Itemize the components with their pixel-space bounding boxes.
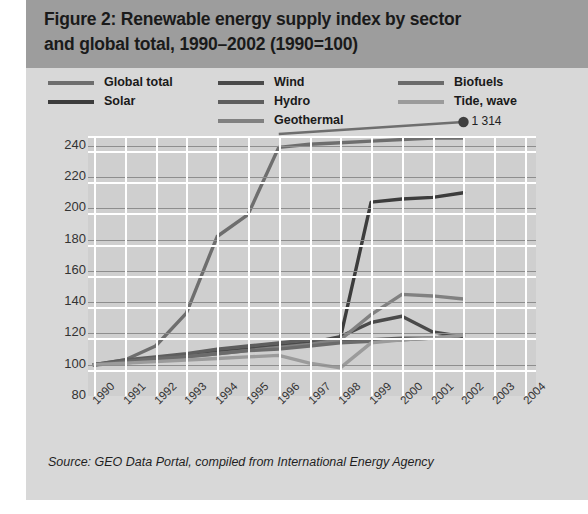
gridline-vertical: [340, 138, 342, 396]
page-title: Figure 2: Renewable energy supply index …: [44, 7, 564, 57]
legend-label: Global total: [104, 75, 173, 89]
data-point-label: 1 314: [471, 114, 501, 128]
legend-swatch-icon: [48, 81, 94, 85]
legend-label: Hydro: [274, 94, 310, 108]
legend-swatch-icon: [218, 81, 264, 85]
gridline-vertical: [371, 138, 373, 396]
gridline-vertical: [494, 138, 496, 396]
gridline-vertical: [402, 138, 404, 396]
y-axis-tick-label: 120: [30, 324, 86, 339]
legend-swatch-icon: [48, 100, 94, 104]
y-axis-tick-label: 100: [30, 355, 86, 370]
gridline-vertical: [125, 138, 127, 396]
plot-area: [88, 136, 536, 396]
series-line-clipped-tail: [279, 122, 464, 134]
gridline-vertical: [525, 138, 527, 396]
legend-label: Biofuels: [454, 75, 503, 89]
gridline-vertical: [186, 138, 188, 396]
y-axis-tick-label: 140: [30, 293, 86, 308]
y-axis-tick-label: 220: [30, 168, 86, 183]
legend-swatch-icon: [398, 81, 444, 85]
y-axis-tick-label: 200: [30, 199, 86, 214]
y-axis-tick-label: 80: [30, 387, 86, 402]
gridline-vertical: [433, 138, 435, 396]
y-axis-tick-label: 180: [30, 230, 86, 245]
legend-label: Solar: [104, 94, 135, 108]
title-line-2: and global total, 1990–2002 (1990=100): [44, 32, 564, 57]
y-axis: 80100120140160180200220240: [26, 136, 86, 426]
legend-label: Wind: [274, 75, 304, 89]
data-point-marker: [458, 117, 468, 127]
x-axis: 1990199119921993199419951996199719981999…: [88, 396, 548, 456]
figure-card: Figure 2: Renewable energy supply index …: [26, 0, 588, 500]
y-axis-tick-label: 160: [30, 261, 86, 276]
y-axis-tick-label: 240: [30, 136, 86, 151]
gridline-vertical: [310, 138, 312, 396]
gridline-vertical: [217, 138, 219, 396]
title-line-1: Figure 2: Renewable energy supply index …: [44, 9, 461, 29]
legend-label: Tide, wave: [454, 94, 517, 108]
source-note: Source: GEO Data Portal, compiled from I…: [48, 455, 434, 469]
legend-swatch-icon: [218, 100, 264, 104]
legend-swatch-icon: [398, 100, 444, 104]
gridline-vertical: [279, 138, 281, 396]
figure-title-band: Figure 2: Renewable energy supply index …: [26, 0, 588, 68]
gridline-vertical: [463, 138, 465, 396]
chart-plot-wrapper: 80100120140160180200220240 1990199119921…: [26, 136, 588, 426]
gridline-vertical: [156, 138, 158, 396]
gridline-vertical: [248, 138, 250, 396]
gridline-vertical: [94, 138, 96, 396]
